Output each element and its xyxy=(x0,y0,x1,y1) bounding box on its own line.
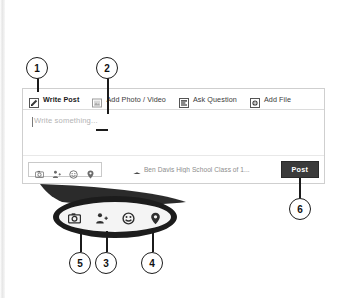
callout-4-number: 4 xyxy=(149,258,155,269)
tab-ask-question[interactable]: Ask Question xyxy=(179,94,237,104)
composer-attachment-icons xyxy=(28,162,102,177)
camera-icon[interactable] xyxy=(35,165,44,174)
callout-5-number: 5 xyxy=(77,258,83,269)
callout-6-number: 6 xyxy=(297,204,303,215)
post-button[interactable]: Post xyxy=(281,161,319,178)
location-icon-magnified[interactable] xyxy=(149,211,162,224)
tab-ask-question-label: Ask Question xyxy=(193,95,237,104)
emoji-icon-magnified[interactable] xyxy=(122,211,135,224)
tab-write-post-label: Write Post xyxy=(43,95,79,104)
tab-add-file-label: Add File xyxy=(264,95,291,104)
camera-icon-magnified[interactable] xyxy=(68,211,81,224)
emoji-icon[interactable] xyxy=(69,165,78,174)
callout-1-number: 1 xyxy=(34,63,40,74)
leader-line-2 xyxy=(107,76,109,114)
question-list-icon xyxy=(179,94,189,104)
tab-add-file[interactable]: Add File xyxy=(250,94,291,104)
tab-add-photo-video[interactable]: Add Photo / Video xyxy=(92,94,166,104)
add-file-icon xyxy=(250,94,260,104)
page-edge-shadow xyxy=(0,0,5,298)
composer-tab-bar: Write Post Add Photo / Video xyxy=(23,89,324,110)
photo-icon xyxy=(92,94,102,104)
post-composer-panel: Write Post Add Photo / Video xyxy=(22,88,325,184)
callout-2-number: 2 xyxy=(104,63,110,74)
leader-line-3 xyxy=(106,231,108,252)
callout-2: 2 xyxy=(96,57,118,79)
leader-line-4 xyxy=(152,231,154,252)
callout-3-number: 3 xyxy=(103,258,109,269)
tab-write-post[interactable]: Write Post xyxy=(29,94,79,104)
callout-3: 3 xyxy=(95,252,117,274)
callout-5: 5 xyxy=(69,252,91,274)
callout-6: 6 xyxy=(289,198,311,220)
audience-selector[interactable]: Ben Davis High School Class of 1... xyxy=(102,165,281,174)
post-text-placeholder: Write something... xyxy=(34,116,98,125)
leader-elbow-2 xyxy=(96,129,108,131)
pencil-icon xyxy=(29,94,39,104)
callout-1: 1 xyxy=(26,57,48,79)
tag-person-icon-magnified[interactable] xyxy=(95,211,108,224)
post-text-area[interactable]: Write something... xyxy=(23,110,324,156)
audience-label: Ben Davis High School Class of 1... xyxy=(144,166,250,173)
location-icon[interactable] xyxy=(86,165,95,174)
leader-line-6 xyxy=(299,178,301,198)
callout-4: 4 xyxy=(141,252,163,274)
tag-person-icon[interactable] xyxy=(52,165,61,174)
leader-line-5 xyxy=(80,231,82,252)
tab-add-photo-video-label: Add Photo / Video xyxy=(106,95,166,104)
graduation-cap-icon xyxy=(133,165,141,174)
text-caret xyxy=(32,117,33,127)
magnified-toolbar-callout xyxy=(53,196,177,238)
